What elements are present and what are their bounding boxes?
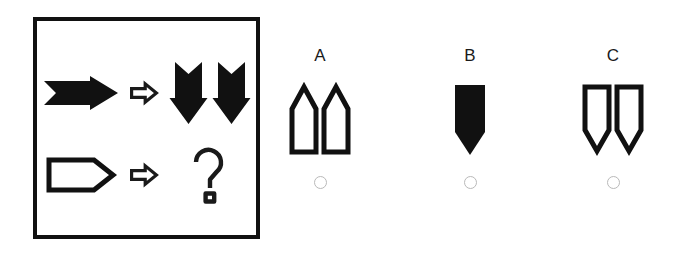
option-b-label: B [464,46,476,68]
prompt-panel [33,17,260,239]
prompt-row-2-operator [124,164,164,186]
prompt-row-2 [37,143,256,207]
down-pentagon-solid-single-icon [453,84,487,156]
answer-options: A B C [265,46,683,206]
prompt-row-1 [37,61,256,125]
question-mark-outline-icon [189,147,231,203]
option-b-figure[interactable] [453,74,487,166]
option-c-label: C [607,46,620,68]
up-pentagon-outline-pair-icon [289,84,351,156]
transform-arrow-icon [130,164,158,186]
option-c[interactable]: C [558,46,668,206]
option-a-figure[interactable] [289,74,351,166]
option-a-radio[interactable] [314,176,327,189]
option-c-radio[interactable] [607,176,620,189]
down-arrow-solid-pair-icon [172,62,248,124]
prompt-row-2-source [38,157,124,193]
right-arrow-solid-icon [44,76,118,110]
prompt-row-2-result [164,147,256,203]
option-a[interactable]: A [265,46,375,206]
option-b[interactable]: B [415,46,525,206]
prompt-row-1-source [38,76,124,110]
right-pentagon-outline-icon [46,157,116,193]
down-pentagon-outline-pair-icon [582,84,644,156]
prompt-row-1-operator [124,82,164,104]
transform-arrow-icon [130,82,158,104]
prompt-row-1-result [164,62,256,124]
option-b-radio[interactable] [464,176,477,189]
option-c-figure[interactable] [582,74,644,166]
option-a-label: A [314,46,326,68]
